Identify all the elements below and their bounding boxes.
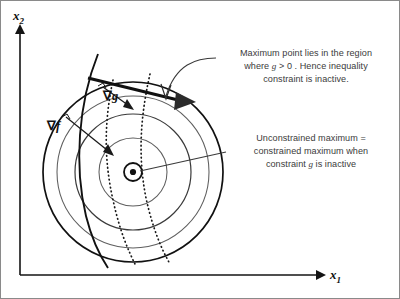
grad-f-arrowhead (103, 144, 114, 156)
annotation-inactive-region-line2-pre: where (244, 61, 272, 71)
constraint-direction-arrowhead (174, 92, 196, 110)
annotation-inactive-region-line3: constraint is inactive. (263, 74, 349, 84)
grad-g-arrowhead (123, 99, 134, 110)
annotation-unconstrained-max-line1: Unconstrained maximum = (256, 133, 366, 143)
maximum-point-dot (130, 169, 136, 175)
grad-g-function: g (111, 89, 118, 103)
x-axis-arrowhead (316, 270, 326, 280)
grad-f-arrow-shaft (66, 117, 112, 154)
figure-container: x1 x2 ∇f ∇g Maximum point lies in the re… (0, 0, 400, 299)
annotation-unconstrained-max-line3-post: is inactive (313, 159, 356, 169)
annotation-unconstrained-max-line2: constrained maximum when (254, 146, 368, 156)
annotation-unconstrained-max-line3-pre: constraint (266, 159, 309, 169)
grad-f-function: f (56, 119, 62, 133)
y-axis-arrowhead (15, 24, 25, 34)
x-axis-label: x1 (329, 267, 341, 285)
annotation-unconstrained-max: Unconstrained maximum = constrained maxi… (228, 132, 394, 172)
leader-line-inactive-region (166, 58, 216, 96)
grad-g-label: ∇g (102, 89, 118, 103)
annotation-inactive-region: Maximum point lies in the region where g… (218, 47, 394, 87)
grad-f-label: ∇f (46, 119, 62, 133)
dotted-curve-right (141, 74, 170, 264)
annotation-inactive-region-line1: Maximum point lies in the region (240, 48, 372, 58)
annotation-inactive-region-line2-post: > 0 . Hence inequality (276, 61, 367, 71)
leader-line-unconstrained-max (140, 152, 226, 171)
y-axis-label: x2 (12, 8, 25, 26)
y-axis-label-subscript: 2 (19, 16, 25, 26)
x-axis-label-subscript: 1 (337, 275, 342, 285)
